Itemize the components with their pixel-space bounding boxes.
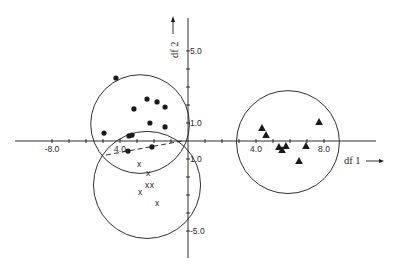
y-arrowhead-icon (171, 16, 175, 22)
y-tick-label: 5.0 (190, 46, 202, 56)
triangle-marker (302, 142, 310, 149)
plot-canvas: -8.04.04.08.05.01.01.0-5.0 xxxxxx df 1 d… (0, 0, 396, 270)
triangle-marker (258, 124, 266, 131)
dot-marker (101, 130, 106, 135)
x-marker: x (150, 180, 155, 190)
x-marker: x (146, 168, 151, 178)
group-dots (101, 75, 167, 153)
dot-marker (113, 75, 118, 80)
dot-marker (131, 106, 136, 111)
triangle-marker (315, 118, 323, 125)
triangle-marker (295, 157, 303, 164)
x-arrowhead-icon (379, 159, 384, 163)
dot-marker (149, 144, 154, 149)
dot-marker (129, 132, 134, 137)
x-tick-label: 4.0 (114, 144, 126, 154)
y-axis-title: df 2 (169, 16, 180, 58)
y-tick-label: -5.0 (190, 226, 205, 236)
x-tick-label: 4.0 (250, 144, 262, 154)
group-crosses: xxxxxx (137, 159, 160, 208)
dot-marker (125, 148, 130, 153)
x-marker: x (155, 198, 160, 208)
x-axis-label: df 1 (344, 155, 361, 166)
y-axis-label: df 2 (169, 41, 180, 58)
dot-marker (162, 124, 167, 129)
x-marker: x (137, 159, 142, 169)
x-axis-title: df 1 (344, 155, 384, 166)
dot-marker (147, 120, 152, 125)
x-tick-label: -8.0 (45, 144, 60, 154)
dot-marker (162, 104, 167, 109)
x-marker: x (138, 187, 143, 197)
group-circles (91, 75, 340, 239)
triangle-marker (262, 131, 270, 138)
x-tick-label: 8.0 (318, 144, 330, 154)
y-tick-label: 1.0 (190, 118, 202, 128)
y-tick-label: 1.0 (190, 154, 202, 164)
dot-marker (144, 96, 149, 101)
dot-marker (154, 99, 159, 104)
discriminant-scatter-plot: -8.04.04.08.05.01.01.0-5.0 xxxxxx df 1 d… (0, 0, 396, 270)
triangle-marker (282, 142, 290, 149)
